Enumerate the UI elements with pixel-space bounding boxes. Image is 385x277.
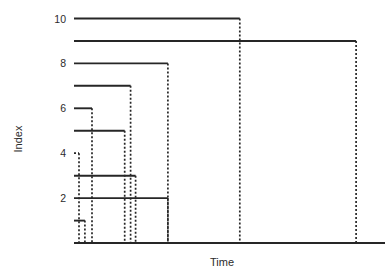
chart-container: 2 4 6 8 10 Time Index <box>0 0 385 277</box>
y-tick-label: 2 <box>60 192 66 204</box>
y-axis-title: Index <box>12 125 24 152</box>
y-tick-label: 6 <box>60 102 66 114</box>
y-tick-label: 4 <box>60 147 66 159</box>
series-step-9 <box>74 41 356 243</box>
series-step-5 <box>74 131 125 243</box>
y-axis-tick-labels: 2 4 6 8 10 <box>54 13 66 205</box>
series-step-1 <box>74 221 85 243</box>
step-chart-plot: 2 4 6 8 10 Time Index <box>0 0 385 277</box>
x-axis-title: Time <box>210 256 234 268</box>
y-tick-label: 10 <box>54 13 66 25</box>
series-step-2 <box>74 198 168 243</box>
series-step-8 <box>74 63 168 243</box>
y-tick-label: 8 <box>60 57 66 69</box>
series-step-7 <box>74 86 131 243</box>
series-step-3 <box>74 176 136 243</box>
series-layer <box>74 19 356 244</box>
